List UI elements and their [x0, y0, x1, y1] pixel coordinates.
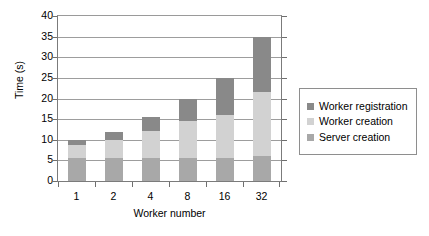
stacked-bar: [216, 78, 234, 181]
bar-segment: [179, 99, 197, 122]
y-axis-tick-label: 35: [29, 31, 53, 41]
x-axis-labels: 12481632: [58, 190, 280, 204]
bar-segment: [216, 115, 234, 157]
legend-item: Worker registration: [307, 101, 408, 112]
y-axis-tick-label: 10: [29, 134, 53, 144]
stacked-bar: [179, 99, 197, 182]
y-axis-tick-label: 5: [29, 154, 53, 164]
x-axis-title: Worker number: [57, 207, 282, 219]
y-axis-tick: [282, 160, 287, 161]
legend-swatch-icon: [307, 118, 314, 125]
y-axis-tick: [282, 37, 287, 38]
y-axis-tick: [52, 57, 57, 58]
y-axis-tick: [282, 16, 287, 17]
y-axis-tick: [282, 78, 287, 79]
y-axis-tick: [282, 140, 287, 141]
bar-segment: [179, 158, 197, 182]
x-axis-tick: [243, 182, 244, 187]
x-axis-tick-label: 4: [132, 190, 169, 202]
stacked-bar: [253, 37, 271, 181]
bar-segment: [105, 140, 123, 158]
x-axis-tick: [58, 182, 59, 187]
bars-layer: [58, 16, 280, 181]
bar-segment: [253, 37, 271, 93]
bar-segment: [105, 132, 123, 139]
x-axis-tick: [206, 182, 207, 187]
stacked-bar-chart: Time (s) 0510152025303540 12481632 Worke…: [0, 0, 429, 236]
bar-segment: [179, 121, 197, 157]
y-axis-tick-label: 25: [29, 72, 53, 82]
bar-segment: [216, 158, 234, 182]
stacked-bar: [68, 140, 86, 181]
y-axis-tick: [52, 140, 57, 141]
legend-item: Worker creation: [307, 116, 408, 127]
bar-segment: [142, 131, 160, 158]
x-axis-tick: [169, 182, 170, 187]
bar-slot: [58, 16, 95, 181]
y-axis-tick: [52, 160, 57, 161]
bar-slot: [206, 16, 243, 181]
bar-segment: [253, 92, 271, 156]
y-axis-tick: [282, 181, 287, 182]
legend-item: Server creation: [307, 132, 408, 143]
x-axis-ticks: [58, 182, 280, 188]
bar-segment: [68, 145, 86, 158]
legend-label: Worker registration: [319, 101, 408, 112]
x-axis-tick-label: 2: [95, 190, 132, 202]
y-axis-tick: [52, 181, 57, 182]
y-axis-tick: [282, 57, 287, 58]
y-axis-tick: [52, 78, 57, 79]
x-axis-tick: [132, 182, 133, 187]
y-axis-tick: [52, 37, 57, 38]
legend-label: Worker creation: [319, 116, 393, 127]
x-axis-tick: [279, 182, 280, 187]
x-axis-tick-label: 1: [58, 190, 95, 202]
y-axis-tick: [282, 119, 287, 120]
x-axis-tick: [95, 182, 96, 187]
bar-segment: [68, 158, 86, 181]
chart-legend: Worker registrationWorker creationServer…: [299, 88, 417, 155]
x-axis-tick-label: 32: [243, 190, 280, 202]
y-axis-tick: [52, 119, 57, 120]
stacked-bar: [105, 132, 123, 181]
x-axis-tick-label: 16: [206, 190, 243, 202]
y-axis-tick-label: 40: [29, 10, 53, 20]
y-axis-tick-label: 20: [29, 93, 53, 103]
y-axis-tick: [282, 99, 287, 100]
y-axis-tick: [52, 99, 57, 100]
bar-segment: [253, 156, 271, 181]
bar-segment: [68, 140, 86, 145]
legend-swatch-icon: [307, 103, 314, 110]
bar-slot: [169, 16, 206, 181]
legend-label: Server creation: [319, 132, 390, 143]
bar-slot: [243, 16, 280, 181]
y-axis-title: Time (s): [13, 45, 25, 115]
bar-segment: [142, 117, 160, 131]
y-axis-tick-label: 0: [29, 175, 53, 185]
stacked-bar: [142, 117, 160, 181]
y-axis-tick-label: 15: [29, 113, 53, 123]
bar-segment: [142, 158, 160, 182]
bar-segment: [105, 158, 123, 182]
x-axis-tick-label: 8: [169, 190, 206, 202]
bar-segment: [216, 78, 234, 115]
legend-swatch-icon: [307, 134, 314, 141]
y-axis-labels: 0510152025303540: [26, 15, 53, 182]
y-axis-tick-label: 30: [29, 51, 53, 61]
bar-slot: [95, 16, 132, 181]
y-axis-tick: [52, 16, 57, 17]
bar-slot: [132, 16, 169, 181]
